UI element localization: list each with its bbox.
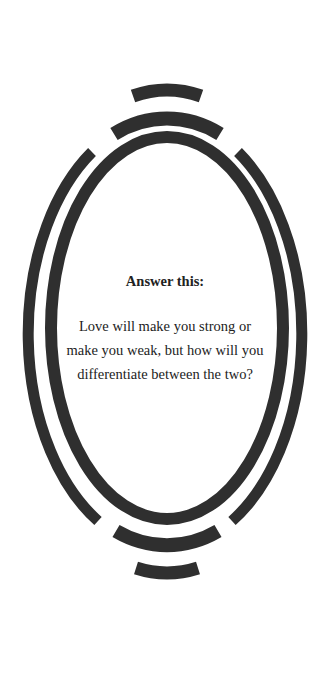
question-line: make you weak, but how will you <box>50 338 280 362</box>
card-question: Love will make you strong or make you we… <box>50 314 280 386</box>
question-line: Love will make you strong or <box>50 314 280 338</box>
question-line: differentiate between the two? <box>50 362 280 386</box>
bottom-small-arc <box>136 568 198 573</box>
top-small-arc <box>133 90 201 96</box>
bottom-middle-arc <box>116 531 218 545</box>
card-heading: Answer this: <box>60 272 270 290</box>
